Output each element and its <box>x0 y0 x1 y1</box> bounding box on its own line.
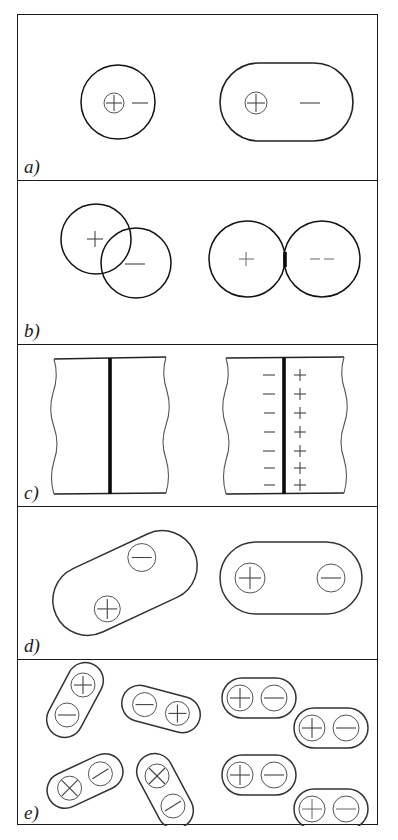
negative-charge-column <box>263 375 275 485</box>
panel-d-stage <box>18 507 377 659</box>
panel-b-stage <box>18 181 377 344</box>
interface-block-unpolarized <box>51 357 170 494</box>
dipole-random-1 <box>40 660 109 744</box>
atom-polarized <box>220 63 353 141</box>
positive-charge-column <box>294 369 306 491</box>
panel-a-stage <box>18 15 377 180</box>
panel-e-label: e) <box>24 802 39 824</box>
panel-b-label: b) <box>24 320 40 342</box>
panel-b-graphic <box>18 181 377 345</box>
ion-pair-polarized <box>209 221 360 297</box>
panel-c: c) <box>18 345 377 507</box>
panel-d: d) <box>18 507 377 660</box>
panel-b: b) <box>18 181 377 345</box>
panel-a-label: a) <box>24 156 40 178</box>
interface-block-polarized <box>223 357 348 494</box>
dipole-random-4 <box>130 747 199 826</box>
panel-d-label: d) <box>24 635 40 657</box>
dipole-aligned-1 <box>222 678 296 718</box>
panel-e: e) <box>18 660 377 826</box>
panel-e-graphic <box>18 660 377 826</box>
panel-c-stage <box>18 345 377 506</box>
dipole-aligned-3 <box>222 755 296 795</box>
dipole-random-2 <box>118 681 205 736</box>
atom-unpolarized <box>81 65 155 139</box>
dipole-aligned-2 <box>294 708 368 748</box>
ion-pair-unpolarized <box>61 204 171 298</box>
dipole-random-3 <box>41 748 129 814</box>
figure-frame: a) <box>17 14 378 825</box>
dipole-aligned <box>220 542 362 614</box>
panel-d-graphic <box>18 507 377 660</box>
panel-a: a) <box>18 15 377 181</box>
panel-a-graphic <box>18 15 377 181</box>
panel-c-graphic <box>18 345 377 507</box>
panel-e-stage <box>18 660 377 826</box>
panel-c-label: c) <box>24 482 39 504</box>
dipole-tilted <box>41 519 208 647</box>
dipole-aligned-4 <box>294 789 368 826</box>
